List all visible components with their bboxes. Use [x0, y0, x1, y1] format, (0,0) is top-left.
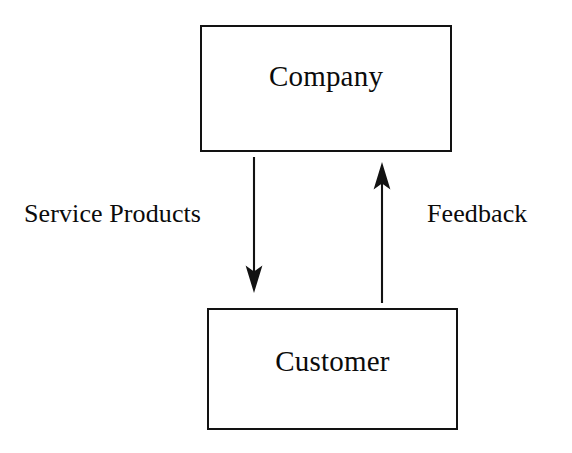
edge-label-service-products: Service Products [24, 201, 201, 227]
edge-label-feedback: Feedback [427, 201, 527, 227]
node-company[interactable]: Company [200, 25, 452, 152]
arrow-feedback [374, 162, 391, 303]
diagram-canvas: Company Customer Service Products Feedba… [0, 0, 572, 453]
arrow-service-products [246, 157, 263, 293]
node-company-label: Company [269, 62, 383, 91]
node-customer-label: Customer [275, 347, 389, 376]
node-customer[interactable]: Customer [207, 308, 458, 430]
